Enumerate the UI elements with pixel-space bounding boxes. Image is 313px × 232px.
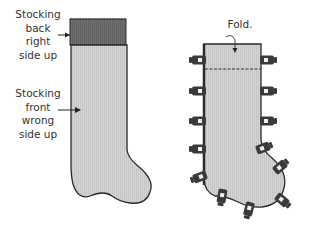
clip-icon	[189, 117, 206, 126]
stocking-front	[71, 45, 151, 203]
arrow-back	[58, 33, 70, 38]
clip-icon	[260, 117, 277, 126]
clip-icon	[189, 145, 206, 154]
clip-icon	[189, 87, 206, 96]
clip-icon	[189, 56, 206, 65]
clip-icon	[260, 87, 277, 96]
stocking-diagram	[0, 0, 313, 232]
stocking-back	[70, 19, 126, 45]
clip-icon	[260, 56, 277, 65]
